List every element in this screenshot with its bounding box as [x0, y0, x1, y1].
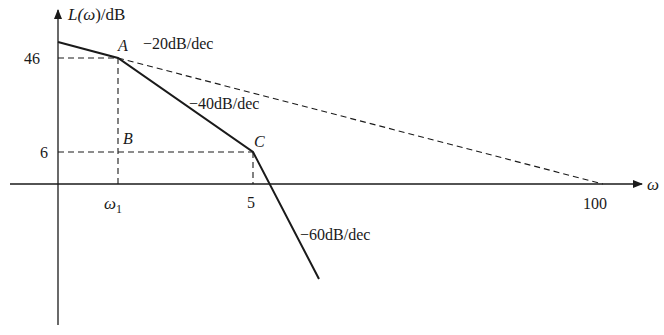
slope-label-40: −40dB/dec [189, 95, 259, 112]
x-tick-5: 5 [247, 194, 255, 211]
point-b-label: B [123, 130, 133, 147]
x-tick-omega1: ω1 [104, 194, 122, 216]
y-axis-label: L(ω)/dB [67, 5, 125, 24]
y-tick-6: 6 [40, 144, 48, 161]
slope-label-20: −20dB/dec [143, 35, 213, 52]
point-a-label: A [117, 37, 128, 54]
x-tick-100: 100 [583, 195, 607, 212]
slope-label-60: −60dB/dec [300, 226, 370, 243]
extension-20db-line [118, 58, 603, 184]
magnitude-asymptote [58, 42, 319, 279]
bode-diagram: L(ω)/dB 46 6 ω1 5 100 ω A B C −20dB/dec … [0, 0, 664, 335]
x-axis-label: ω [647, 175, 659, 194]
point-c-label: C [254, 133, 265, 150]
y-tick-46: 46 [24, 50, 40, 67]
